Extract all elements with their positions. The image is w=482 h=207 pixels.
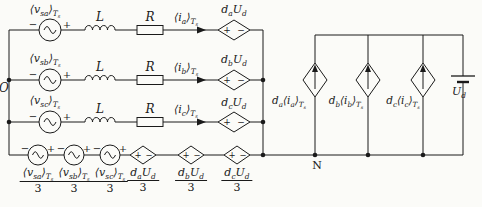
- cm-cvs-c-plus: +: [228, 150, 235, 160]
- dc-ccs-c-label: dc⟨ic⟩Ts: [386, 94, 420, 108]
- resistor-a-label: R: [144, 10, 154, 24]
- cm-cvs-a-plus: +: [134, 150, 141, 160]
- cm-source-a-label: ⟨vsa⟩Ts 3: [20, 167, 57, 195]
- cm-b-plus: +: [83, 143, 91, 154]
- cm-source-b-den: 3: [55, 182, 92, 195]
- node-o-label: O: [0, 81, 9, 95]
- cvs-c-plus: +: [223, 117, 231, 127]
- phase-c-source-label: ⟨vsc⟩Ts: [30, 95, 60, 108]
- cvs-a-plus: +: [223, 25, 231, 35]
- dc-ccs-a-label: da⟨ia⟩Ts: [272, 94, 306, 108]
- phase-a-cvs-label: daUd: [221, 4, 247, 17]
- cm-source-b: − +: [57, 143, 91, 165]
- source-c-plus-sign: +: [63, 111, 71, 122]
- phase-c-cvs-label: dcUd: [221, 97, 246, 110]
- cm-cvs-a-label: daUd 3: [127, 167, 159, 194]
- cm-source-a-den: 3: [20, 182, 57, 195]
- inductor-c: L: [85, 102, 115, 122]
- cm-cvs-a-den: 3: [127, 181, 159, 194]
- cm-a-minus: −: [21, 143, 29, 154]
- current-arrow-b: [197, 77, 206, 84]
- cm-source-a-num: ⟨vsa⟩Ts: [20, 167, 57, 182]
- cm-cvs-c-minus: −: [239, 150, 246, 160]
- source-b-plus-sign: +: [63, 69, 71, 80]
- cm-source-c: − +: [93, 143, 127, 165]
- cvs-phase-c: + −: [218, 112, 250, 132]
- cm-source-c-num: ⟨vsc⟩Ts: [92, 167, 128, 182]
- cm-cvs-b-label: dbUd 3: [175, 167, 207, 194]
- phase-b-current-label: ⟨ib⟩Ts: [174, 62, 198, 75]
- resistor-b: R: [137, 60, 163, 85]
- phase-a-source-label: ⟨vsa⟩Ts: [30, 4, 61, 17]
- resistor-c-label: R: [144, 102, 154, 116]
- current-arrow-a: [197, 27, 206, 34]
- resistor-b-label: R: [144, 60, 154, 74]
- cm-source-b-num: ⟨vsb⟩Ts: [55, 167, 92, 182]
- cm-cvs-a: + −: [130, 146, 156, 164]
- cvs-phase-b: + −: [218, 70, 250, 90]
- cm-cvs-b-den: 3: [175, 181, 207, 194]
- inductor-b: L: [85, 60, 115, 80]
- inductor-a: L: [85, 10, 115, 30]
- inductor-b-label: L: [95, 60, 104, 74]
- cm-cvs-a-num: daUd: [127, 167, 159, 181]
- cvs-b-minus: −: [237, 75, 245, 85]
- source-b-minus-sign: −: [29, 69, 37, 80]
- cm-b-minus: −: [57, 143, 65, 154]
- phase-b-source-label: ⟨vsb⟩Ts: [29, 53, 60, 66]
- cm-source-a: − +: [21, 143, 55, 165]
- node-n-label: N: [312, 159, 322, 172]
- cm-cvs-b-plus: +: [182, 150, 189, 160]
- cvs-b-plus: +: [223, 75, 231, 85]
- cm-c-minus: −: [93, 143, 101, 154]
- cm-cvs-b-num: dbUd: [175, 167, 207, 181]
- cm-source-c-den: 3: [92, 182, 128, 195]
- cvs-phase-a: + −: [218, 20, 250, 40]
- cm-a-plus: +: [47, 143, 55, 154]
- cm-c-plus: +: [119, 143, 127, 154]
- cm-cvs-c-label: dcUd 3: [221, 167, 252, 194]
- inductor-c-label: L: [95, 102, 104, 116]
- source-a-plus-sign: +: [63, 19, 71, 30]
- current-arrow-c: [197, 119, 206, 126]
- phase-a-current-label: ⟨ia⟩Ts: [174, 12, 198, 25]
- cm-source-c-label: ⟨vsc⟩Ts 3: [92, 167, 128, 195]
- source-c-minus-sign: −: [29, 111, 37, 122]
- cm-cvs-c-den: 3: [221, 181, 252, 194]
- cm-source-b-label: ⟨vsb⟩Ts 3: [55, 167, 92, 195]
- dc-ccs-b-label: db⟨ib⟩Ts: [329, 94, 364, 108]
- cm-cvs-c: + −: [224, 146, 250, 164]
- inductor-a-label: L: [95, 10, 104, 24]
- circuit-diagram: − + L R + − −: [0, 0, 482, 207]
- cm-cvs-a-minus: −: [145, 150, 152, 160]
- dc-ccs-a: [303, 35, 327, 155]
- cm-cvs-b-minus: −: [193, 150, 200, 160]
- cvs-c-minus: −: [237, 117, 245, 127]
- resistor-c: R: [137, 102, 163, 127]
- cvs-a-minus: −: [237, 25, 245, 35]
- common-mode-branch: − + − + − + + − +: [9, 143, 250, 165]
- resistor-a: R: [137, 10, 163, 35]
- dc-voltage-label: Ud: [452, 86, 466, 99]
- source-a-minus-sign: −: [29, 19, 37, 30]
- phase-b-cvs-label: dbUd: [221, 54, 247, 67]
- cm-cvs-c-num: dcUd: [221, 167, 252, 181]
- phase-c-current-label: ⟨ic⟩Ts: [174, 104, 198, 117]
- cm-cvs-b: + −: [178, 146, 204, 164]
